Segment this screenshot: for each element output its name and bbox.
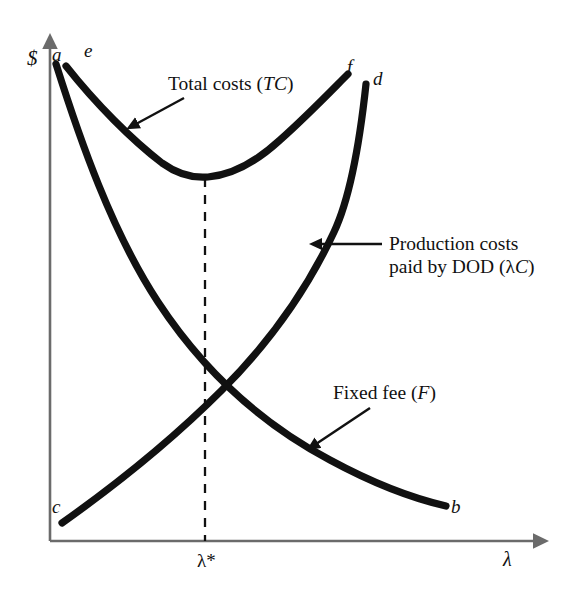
production-costs-annotation-symbol: C [515, 256, 528, 277]
point-label-d: d [373, 68, 383, 90]
point-label-a: a [52, 44, 62, 66]
total-costs-annotation-suffix: ) [287, 73, 294, 94]
fixed-fee-annotation: Fixed fee (F) [333, 381, 436, 404]
production-costs-annotation-line1: Production costs [389, 233, 518, 254]
total-costs-annotation-text: Total costs ( [168, 73, 263, 94]
y-axis-label: $ [27, 46, 38, 71]
fixed-fee-annotation-suffix: ) [429, 382, 436, 403]
total-costs-annotation: Total costs (TC) [168, 72, 293, 95]
x-axis-label: λ [503, 548, 512, 572]
total-costs-annotation-arrow [136, 98, 184, 124]
fixed-fee-curve [56, 64, 446, 506]
point-label-c: c [52, 496, 60, 518]
production-costs-annotation-line2-prefix: paid by DOD (λ [389, 256, 515, 277]
total-costs-annotation-symbol: TC [263, 73, 287, 94]
point-label-b: b [451, 496, 461, 518]
production-costs-annotation: Production costs paid by DOD (λC) [389, 232, 534, 278]
point-label-f: f [347, 56, 352, 78]
cost-sharing-chart: $ λ λ* a e f d c b Total costs (TC) Prod… [0, 0, 570, 595]
fixed-fee-annotation-arrow [316, 408, 370, 444]
production-costs-annotation-line2-suffix: ) [528, 256, 535, 277]
point-label-e: e [84, 40, 92, 62]
x-axis-tick-lambda-star: λ* [197, 550, 216, 572]
fixed-fee-annotation-text: Fixed fee ( [333, 382, 417, 403]
fixed-fee-annotation-symbol: F [417, 382, 429, 403]
